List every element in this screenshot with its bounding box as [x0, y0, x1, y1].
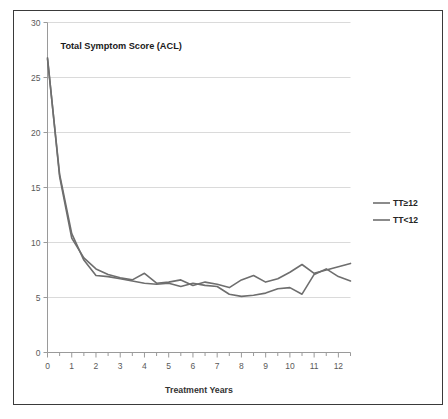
chart-figure: 0510152025300123456789101112Treatment Ye…: [0, 0, 448, 419]
x-tick-label: 12: [334, 361, 344, 371]
y-tick-label: 5: [36, 293, 41, 303]
x-tick-label: 8: [239, 361, 244, 371]
y-tick-label: 0: [36, 348, 41, 358]
legend-label-2: TT<12: [393, 215, 418, 225]
x-tick-label: 11: [310, 361, 319, 371]
chart-plot: 0510152025300123456789101112Treatment Ye…: [0, 0, 448, 419]
series-line-1: [48, 58, 351, 288]
x-tick-label: 5: [166, 361, 171, 371]
y-tick-label: 15: [31, 183, 41, 193]
x-tick-label: 9: [263, 361, 268, 371]
y-tick-label: 25: [31, 73, 41, 83]
x-tick-label: 1: [69, 361, 74, 371]
x-tick-label: 0: [45, 361, 50, 371]
x-tick-label: 4: [142, 361, 147, 371]
x-tick-label: 2: [94, 361, 99, 371]
x-tick-label: 10: [285, 361, 295, 371]
x-tick-label: 3: [118, 361, 123, 371]
series-line-2: [48, 59, 351, 297]
x-tick-label: 7: [215, 361, 220, 371]
chart-title: Total Symptom Score (ACL): [61, 41, 182, 51]
legend-label-1: TT≥12: [393, 198, 418, 208]
y-tick-label: 30: [31, 18, 41, 28]
y-tick-label: 20: [31, 128, 41, 138]
y-tick-label: 10: [31, 238, 41, 248]
x-tick-label: 6: [191, 361, 196, 371]
x-axis-title: Treatment Years: [165, 385, 233, 395]
